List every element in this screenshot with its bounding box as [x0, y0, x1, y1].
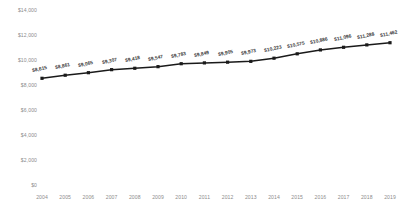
data-point-marker [249, 60, 252, 63]
series-line [42, 43, 390, 79]
data-point-marker [87, 71, 90, 74]
series-markers [40, 41, 391, 80]
data-point-marker [226, 61, 229, 64]
data-point-marker [203, 61, 206, 64]
data-point-marker [272, 57, 275, 60]
data-point-marker [365, 43, 368, 46]
data-point-marker [319, 48, 322, 51]
plot-area [0, 0, 410, 209]
data-point-marker [110, 68, 113, 71]
data-point-marker [342, 46, 345, 49]
data-point-marker [296, 52, 299, 55]
line-chart: $0$2,000$4,000$6,000$8,000$10,000$12,000… [0, 0, 410, 209]
data-point-marker [40, 77, 43, 80]
data-point-marker [133, 67, 136, 70]
data-point-marker [388, 41, 391, 44]
data-point-marker [180, 62, 183, 65]
data-point-marker [64, 74, 67, 77]
data-point-marker [156, 65, 159, 68]
